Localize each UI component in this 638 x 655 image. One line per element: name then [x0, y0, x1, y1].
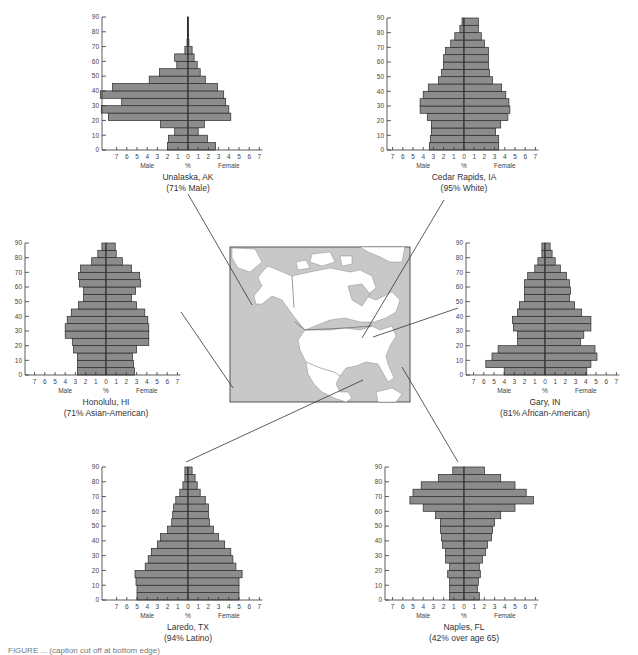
- bar-male-65-69: [176, 497, 188, 504]
- bar-male-0-4: [77, 368, 106, 375]
- bar-male-40-44: [518, 309, 546, 316]
- bar-male-25-29: [65, 331, 106, 338]
- y-tick-label: 90: [15, 239, 23, 246]
- bar-male-65-69: [185, 47, 188, 54]
- percent-label: %: [185, 612, 191, 619]
- x-tick-label: 7: [115, 153, 119, 160]
- bar-female-10-14: [106, 353, 133, 360]
- y-tick-label: 80: [15, 254, 23, 261]
- chart-subtitle: (94% Latino): [164, 633, 212, 643]
- bar-female-45-49: [188, 526, 214, 533]
- bar-female-30-34: [188, 98, 226, 105]
- bar-female-25-29: [106, 331, 149, 338]
- bar-female-55-59: [464, 62, 489, 69]
- x-tick-label: 4: [145, 153, 149, 160]
- female-label: Female: [218, 162, 240, 169]
- x-tick-label: 1: [452, 153, 456, 160]
- y-tick-label: 50: [377, 73, 385, 80]
- bar-female-0-4: [188, 593, 239, 600]
- y-tick-label: 40: [375, 537, 383, 544]
- x-tick-label: 5: [594, 378, 598, 385]
- x-tick-label: 6: [165, 378, 169, 385]
- y-tick-label: 90: [456, 239, 464, 246]
- y-tick-label: 0: [95, 596, 99, 603]
- bar-female-80-84: [464, 474, 501, 481]
- x-tick-label: 7: [258, 153, 262, 160]
- bar-male-20-24: [518, 338, 546, 345]
- bar-female-0-4: [545, 368, 587, 375]
- bar-female-40-44: [188, 534, 219, 541]
- bar-male-65-69: [528, 272, 545, 279]
- x-tick-label: 6: [43, 378, 47, 385]
- x-tick-label: 2: [166, 603, 170, 610]
- bar-male-70-74: [180, 489, 188, 496]
- bar-female-70-74: [464, 489, 526, 496]
- bar-male-35-39: [157, 541, 188, 548]
- chart-subtitle: (95% White): [441, 183, 488, 193]
- x-tick-label: 7: [534, 603, 538, 610]
- x-tick-label: 1: [553, 378, 557, 385]
- bar-female-75-79: [545, 258, 555, 265]
- bar-male-0-4: [450, 593, 464, 600]
- bar-male-85-89: [185, 467, 188, 474]
- bar-female-5-9: [106, 360, 134, 367]
- bar-female-75-79: [464, 33, 481, 40]
- bar-female-65-69: [464, 497, 533, 504]
- bar-female-35-39: [188, 541, 225, 548]
- bar-male-45-49: [149, 76, 188, 83]
- x-tick-label: 6: [125, 603, 129, 610]
- bar-female-50-54: [464, 519, 495, 526]
- bar-male-40-44: [113, 84, 189, 91]
- x-tick-label: 1: [533, 378, 537, 385]
- bar-male-15-19: [135, 570, 188, 577]
- bar-male-60-64: [80, 280, 107, 287]
- x-tick-label: 4: [502, 378, 506, 385]
- bar-male-45-49: [168, 526, 188, 533]
- x-tick-label: 1: [176, 153, 180, 160]
- figure-caption: FIGURE ... (caption cut off at bottom ed…: [8, 646, 160, 655]
- bar-male-35-39: [100, 91, 188, 98]
- pyramid-chart-6: 0102030405060708090765432101234567Male%F…: [375, 463, 539, 643]
- bar-female-0-4: [188, 143, 216, 150]
- x-tick-label: 4: [503, 153, 507, 160]
- bar-female-70-74: [545, 265, 560, 272]
- bar-female-80-84: [464, 25, 478, 32]
- y-tick-label: 70: [377, 44, 385, 51]
- chart-subtitle: (71% Male): [166, 183, 210, 193]
- bar-female-85-89: [545, 243, 550, 250]
- x-tick-label: 5: [513, 603, 517, 610]
- x-tick-label: 6: [247, 153, 251, 160]
- x-tick-label: 6: [247, 603, 251, 610]
- bar-female-55-59: [188, 61, 197, 68]
- x-tick-label: 2: [483, 603, 487, 610]
- bar-female-55-59: [106, 287, 136, 294]
- x-tick-label: 2: [125, 378, 129, 385]
- x-tick-label: 3: [432, 603, 436, 610]
- y-tick-label: 80: [456, 254, 464, 261]
- y-tick-label: 50: [375, 522, 383, 529]
- x-tick-label: 7: [33, 378, 37, 385]
- bar-male-15-19: [73, 346, 106, 353]
- bar-male-5-9: [430, 135, 464, 142]
- bar-male-70-74: [535, 265, 545, 272]
- bar-female-50-54: [106, 294, 132, 301]
- bar-female-25-29: [464, 106, 510, 113]
- chart-subtitle: (71% Asian-American): [64, 408, 149, 418]
- bar-female-20-24: [188, 113, 231, 120]
- bar-male-75-79: [455, 33, 464, 40]
- bar-female-65-69: [464, 47, 489, 54]
- bar-male-20-24: [72, 338, 106, 345]
- x-tick-label: 1: [94, 378, 98, 385]
- bar-male-40-44: [428, 84, 464, 91]
- x-tick-label: 3: [217, 153, 221, 160]
- x-tick-label: 0: [462, 153, 466, 160]
- chart-title: Honolulu, HI: [83, 397, 130, 407]
- x-tick-label: 5: [53, 378, 57, 385]
- bar-female-60-64: [464, 504, 515, 511]
- y-tick-label: 60: [92, 58, 100, 65]
- y-tick-label: 80: [375, 478, 383, 485]
- x-tick-label: 6: [604, 378, 608, 385]
- y-tick-label: 20: [92, 567, 100, 574]
- female-label: Female: [218, 612, 240, 619]
- bar-female-5-9: [188, 135, 207, 142]
